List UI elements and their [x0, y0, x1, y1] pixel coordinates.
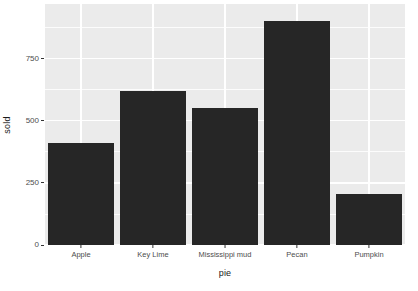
- bar: [48, 143, 114, 245]
- x-axis-tick-label-line: Pecan: [286, 250, 307, 259]
- x-axis-tick-label-line: Pumpkin: [354, 250, 383, 259]
- y-axis-tick-label: 0: [35, 239, 39, 251]
- x-axis-tick-mark: [225, 245, 226, 248]
- y-axis-tick: 750: [26, 53, 44, 65]
- x-axis-title: pie: [45, 268, 405, 278]
- y-axis-tick-mark: [41, 120, 44, 121]
- x-axis-tick-mark: [81, 245, 82, 248]
- x-axis-tick-label: Key Lime: [137, 250, 168, 259]
- x-axis-tick-mark: [369, 245, 370, 248]
- y-axis-tick-mark: [41, 182, 44, 183]
- y-axis-tick: 250: [26, 177, 44, 189]
- bar: [264, 21, 330, 245]
- bar: [192, 108, 258, 245]
- x-axis-tick: Mississippi mud: [199, 245, 252, 259]
- x-axis-tick-label: Mississippi mud: [199, 250, 252, 259]
- x-axis-tick-label-line: Key Lime: [137, 250, 168, 259]
- y-axis-tick: 0: [35, 239, 44, 251]
- y-axis-tick-mark: [41, 58, 44, 59]
- plot-panel: [45, 4, 405, 245]
- bar: [120, 91, 186, 245]
- x-axis-tick-mark: [152, 245, 153, 248]
- x-axis-tick: Key Lime: [137, 245, 168, 259]
- x-axis-tick-label-line: Mississippi mud: [199, 250, 252, 259]
- x-axis-tick: Pecan: [286, 245, 307, 259]
- x-axis-tick: Apple: [71, 245, 90, 259]
- bar-chart: sold 7505002500 AppleKey LimeMississippi…: [0, 0, 418, 291]
- x-axis-tick: Pumpkin: [354, 245, 383, 259]
- y-axis-tick-label: 750: [26, 53, 39, 65]
- x-axis-tick-label: Pecan: [286, 250, 307, 259]
- y-axis-tick-label: 250: [26, 177, 39, 189]
- y-axis-title: sold: [0, 0, 14, 250]
- y-axis-tick-mark: [41, 245, 44, 246]
- y-axis-title-label: sold: [2, 116, 12, 133]
- y-axis-tick: 500: [26, 115, 44, 127]
- x-axis-tick-label-line: Apple: [71, 250, 90, 259]
- y-axis-tick-label: 500: [26, 115, 39, 127]
- x-axis-tick-label: Pumpkin: [354, 250, 383, 259]
- bar: [336, 194, 402, 245]
- x-axis-tick-label: Apple: [71, 250, 90, 259]
- x-axis-tick-mark: [297, 245, 298, 248]
- y-axis-ticks: 7505002500: [14, 0, 44, 250]
